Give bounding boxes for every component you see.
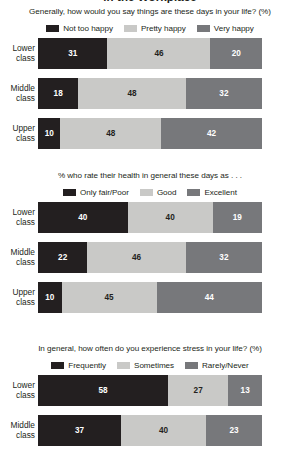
row-label: Lower class (0, 381, 38, 400)
panel-title: % who rate their health in general these… (0, 170, 300, 181)
chart-row: Lower class 58 27 13 (0, 375, 300, 406)
bar-segment: 32 (186, 242, 262, 273)
legend-label: Sometimes (134, 361, 174, 370)
row-label: Lower class (0, 44, 38, 63)
chart-rows: Lower class 58 27 13 Middle class 37 40 … (0, 375, 300, 446)
infographic-page: in the Workplace Generally, how would yo… (0, 0, 300, 468)
stacked-bar: 10 48 42 (38, 118, 262, 149)
legend-label: Good (157, 188, 177, 197)
stacked-bar: 58 27 13 (38, 375, 262, 406)
legend-item: Very happy (197, 24, 254, 33)
bar-segment: 46 (107, 38, 210, 69)
row-label: Upper class (0, 124, 38, 143)
legend-swatch-icon (51, 362, 64, 370)
bar-segment: 10 (38, 118, 60, 149)
chart-panel-stress: In general, how often do you experience … (0, 343, 300, 455)
legend-item: Only fair/Poor (63, 188, 129, 197)
legend-label: Excellent (204, 188, 236, 197)
chart-rows: Lower class 40 40 19 Middle class 22 46 … (0, 202, 300, 313)
legend-swatch-icon (63, 189, 76, 197)
legend-item: Pretty happy (124, 24, 186, 33)
bar-segment: 48 (78, 78, 186, 109)
bar-segment: 32 (186, 78, 262, 109)
stacked-bar: 37 40 23 (38, 415, 262, 446)
chart-panel-happiness: Generally, how would you say things are … (0, 6, 300, 158)
bar-segment: 42 (161, 118, 262, 149)
legend-label: Pretty happy (141, 24, 186, 33)
chart-row: Middle class 18 48 32 (0, 78, 300, 109)
stacked-bar: 40 40 19 (38, 202, 262, 233)
bar-segment: 40 (38, 202, 128, 233)
super-title: in the Workplace (0, 0, 300, 3)
row-label: Middle class (0, 84, 38, 103)
row-label-line2: class (0, 391, 35, 400)
row-label-line2: class (0, 94, 35, 103)
bar-segment: 20 (210, 38, 262, 69)
chart-row: Middle class 22 46 32 (0, 242, 300, 273)
bar-segment: 40 (121, 415, 206, 446)
bar-segment: 22 (38, 242, 87, 273)
row-label-line2: class (0, 218, 35, 227)
panel-title: In general, how often do you experience … (0, 343, 300, 354)
stacked-bar: 18 48 32 (38, 78, 262, 109)
legend-label: Frequently (68, 361, 106, 370)
row-label: Upper class (0, 288, 38, 307)
chart-rows: Lower class 31 46 20 Middle class 18 48 … (0, 38, 300, 149)
legend-item: Excellent (187, 188, 236, 197)
row-label-line2: class (0, 54, 35, 63)
bar-segment: 40 (128, 202, 213, 233)
legend-label: Rarely/Never (202, 361, 249, 370)
legend-swatch-icon (187, 189, 200, 197)
legend-label: Not too happy (63, 24, 113, 33)
row-label: Lower class (0, 208, 38, 227)
bar-segment: 46 (87, 242, 186, 273)
chart-legend: Not too happy Pretty happy Very happy (0, 24, 300, 33)
chart-row: Middle class 37 40 23 (0, 415, 300, 446)
row-label-line2: class (0, 134, 35, 143)
chart-row: Upper class 10 48 42 (0, 118, 300, 149)
legend-swatch-icon (140, 189, 153, 197)
legend-label: Very happy (214, 24, 254, 33)
chart-row: Lower class 31 46 20 (0, 38, 300, 69)
row-label-line2: class (0, 258, 35, 267)
legend-item: Sometimes (117, 361, 174, 370)
stacked-bar: 31 46 20 (38, 38, 262, 69)
legend-swatch-icon (185, 362, 198, 370)
legend-item: Good (140, 188, 177, 197)
chart-row: Upper class 10 45 44 (0, 282, 300, 313)
chart-row: Lower class 40 40 19 (0, 202, 300, 233)
panel-title: Generally, how would you say things are … (0, 6, 300, 17)
row-label-line2: class (0, 431, 35, 440)
bar-segment: 13 (228, 375, 262, 406)
bar-segment: 10 (38, 282, 62, 313)
row-label-line2: class (0, 298, 35, 307)
bar-segment: 58 (38, 375, 168, 406)
bar-segment: 48 (60, 118, 161, 149)
bar-segment: 19 (213, 202, 262, 233)
stacked-bar: 10 45 44 (38, 282, 262, 313)
legend-swatch-icon (46, 25, 59, 33)
bar-segment: 44 (157, 282, 262, 313)
bar-segment: 37 (38, 415, 121, 446)
legend-item: Rarely/Never (185, 361, 249, 370)
bar-segment: 31 (38, 38, 107, 69)
chart-panel-health: % who rate their health in general these… (0, 170, 300, 322)
legend-swatch-icon (197, 25, 210, 33)
chart-legend: Only fair/Poor Good Excellent (0, 188, 300, 197)
bar-segment: 23 (206, 415, 262, 446)
legend-label: Only fair/Poor (80, 188, 129, 197)
row-label: Middle class (0, 421, 38, 440)
legend-item: Not too happy (46, 24, 113, 33)
legend-swatch-icon (124, 25, 137, 33)
chart-legend: Frequently Sometimes Rarely/Never (0, 361, 300, 370)
bar-segment: 45 (62, 282, 157, 313)
bar-segment: 18 (38, 78, 78, 109)
legend-swatch-icon (117, 362, 130, 370)
legend-item: Frequently (51, 361, 106, 370)
row-label: Middle class (0, 248, 38, 267)
bar-segment: 27 (168, 375, 228, 406)
stacked-bar: 22 46 32 (38, 242, 262, 273)
